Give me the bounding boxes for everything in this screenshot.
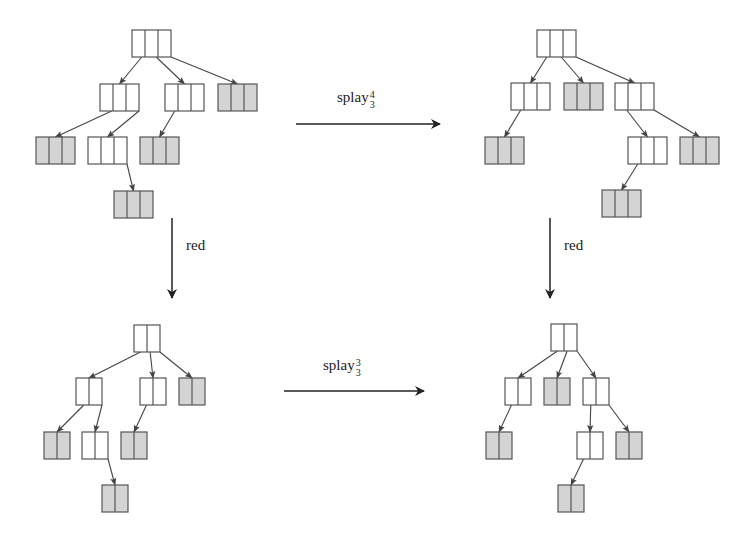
tree-edge	[134, 405, 147, 432]
tree-edge	[609, 405, 629, 432]
leaf-node	[564, 83, 603, 110]
tree-edge	[571, 459, 584, 485]
label-splay-4-3: splay43	[337, 89, 375, 109]
internal-node	[583, 378, 609, 405]
leaf-node	[121, 432, 147, 459]
internal-node	[100, 84, 139, 111]
internal-node	[88, 137, 127, 164]
tree-edge	[108, 111, 140, 137]
leaf-node	[179, 378, 205, 405]
internal-node	[551, 324, 577, 351]
label-red-right: red	[564, 237, 583, 254]
tree-edge	[57, 405, 84, 432]
label-splay-3-3: splay33	[323, 357, 361, 377]
leaf-node	[218, 84, 257, 111]
internal-node	[537, 30, 576, 57]
internal-node	[132, 30, 171, 57]
internal-node	[511, 83, 550, 110]
tree-edge	[531, 57, 547, 83]
internal-node	[505, 378, 531, 405]
tree-edge	[95, 405, 102, 432]
leaf-node	[140, 137, 179, 164]
tree-edge	[654, 110, 700, 137]
leaf-node	[485, 137, 524, 164]
internal-node	[134, 325, 160, 352]
tree-edges	[56, 57, 700, 485]
label-red-left: red	[186, 237, 205, 254]
leaf-node	[486, 432, 512, 459]
leaf-node	[44, 432, 70, 459]
tree-nodes	[36, 30, 719, 512]
leaf-node	[544, 378, 570, 405]
internal-node	[76, 378, 102, 405]
leaf-node	[616, 432, 642, 459]
leaf-node	[36, 137, 75, 164]
tree-edge	[577, 351, 596, 378]
tree-edge	[127, 164, 134, 191]
tree-edge	[150, 352, 153, 378]
tree-edge	[590, 405, 591, 432]
tree-edge	[56, 111, 112, 137]
tree-edge	[576, 57, 635, 83]
internal-node	[577, 432, 603, 459]
tree-edge	[561, 57, 583, 83]
internal-node	[615, 83, 654, 110]
tree-edge	[518, 351, 558, 378]
tree-edge	[499, 405, 512, 432]
tree-edge	[108, 459, 115, 485]
internal-node	[82, 432, 108, 459]
tree-edge	[120, 57, 142, 84]
leaf-node	[558, 485, 584, 512]
tree-edge	[557, 351, 567, 378]
tree-edge	[160, 111, 175, 137]
internal-node	[140, 378, 166, 405]
tree-edge	[89, 352, 141, 378]
leaf-node	[102, 485, 128, 512]
tree-edge	[505, 110, 521, 137]
diagram-canvas	[0, 0, 752, 544]
leaf-node	[680, 137, 719, 164]
leaf-node	[602, 190, 641, 217]
internal-node	[165, 84, 204, 111]
tree-edge	[160, 352, 192, 378]
tree-edge	[622, 164, 638, 190]
internal-node	[628, 137, 667, 164]
tree-edge	[627, 110, 648, 137]
leaf-node	[114, 191, 153, 218]
